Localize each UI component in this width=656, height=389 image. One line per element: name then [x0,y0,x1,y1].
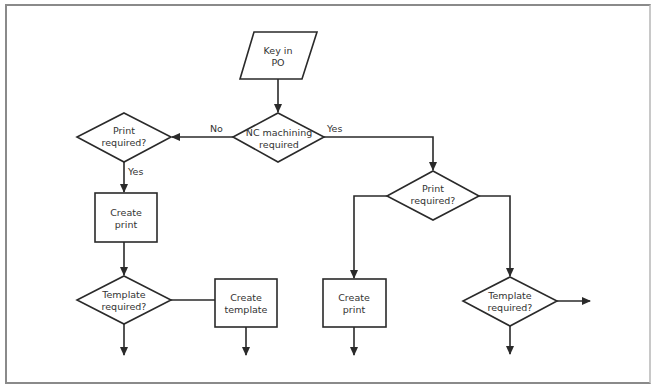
node-create-print-left: Create print [95,193,157,242]
node-nc-machining-required: NC machining required [233,113,324,162]
edge-label-print-yes: Yes [127,166,143,177]
node-template-right-line1: Template [487,290,532,301]
edge-print-right-to-createprint [354,196,387,278]
node-print-right-line1: Print [422,183,444,194]
node-key-in-po: Key in PO [240,32,317,79]
node-template-required-left: Template required? [77,276,171,324]
node-create-template-line2: template [225,304,268,315]
edge-nc-yes [324,137,433,170]
node-print-right-line2: required? [411,195,456,206]
edge-print-right-to-template [479,196,510,276]
node-key-in-po-line1: Key in [264,45,293,56]
node-template-required-right: Template required? [463,277,557,326]
node-create-print-left-line2: print [115,219,138,230]
node-print-left-line2: required? [102,137,147,148]
node-create-template: Create template [215,279,277,327]
node-print-required-left: Print required? [77,113,171,162]
node-create-print-right: Create print [323,279,386,327]
node-nc-line1: NC machining [246,127,312,138]
node-template-right-line2: required? [488,302,533,313]
node-create-print-left-line1: Create [110,207,142,218]
edge-label-yes: Yes [326,123,342,134]
edge-label-no: No [210,123,223,134]
node-template-left-line2: required? [102,301,147,312]
node-nc-line2: required [259,139,299,150]
node-template-left-line1: Template [101,289,146,300]
node-create-print-right-line2: print [343,304,366,315]
node-create-template-line1: Create [230,292,262,303]
node-create-print-right-line1: Create [338,292,370,303]
node-print-left-line1: Print [113,125,135,136]
node-key-in-po-line2: PO [271,57,284,68]
node-print-required-right: Print required? [387,171,479,220]
flowchart-canvas: No Yes Yes Key in PO NC machining requir… [0,0,656,389]
